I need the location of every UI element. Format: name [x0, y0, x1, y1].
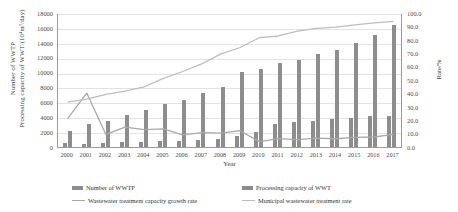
- legend-item[interactable]: Processing capacity of WWT: [242, 182, 402, 193]
- right-axis-tick-label: 90.0: [407, 24, 418, 30]
- right-axis-tick-label: 60.0: [407, 64, 418, 70]
- left-axis-title-line2: Processing capacity of WWT/(10⁴m³/day): [18, 0, 27, 139]
- left-axis-tick-label: 6000: [40, 100, 53, 106]
- left-axis-title-line1: Number of WWTP: [9, 0, 18, 139]
- left-axis-tick-label: 0: [50, 145, 53, 151]
- left-axis-tick-label: 18000: [37, 11, 53, 17]
- legend-item-label: Number of WWTP: [86, 184, 135, 191]
- left-axis-tick-label: 16000: [37, 26, 53, 32]
- left-axis-tick-label: 10000: [37, 70, 53, 76]
- chart-legend: Number of WWTPProcessing capacity of WWT…: [72, 182, 402, 206]
- right-axis-tick-label: 10.0: [407, 131, 418, 137]
- legend-item-label: Wastewater treatment capacity growth rat…: [88, 197, 197, 204]
- legend-line-swatch-light: [242, 200, 255, 201]
- left-axis-tick-label: 14000: [37, 41, 53, 47]
- right-axis-tick-label: 40.0: [407, 91, 418, 97]
- left-axis-tick-label: 4000: [40, 115, 53, 121]
- wwtp-chart: 0200040006000800010000120001400016000180…: [0, 0, 458, 212]
- right-axis-tick-label: 70.0: [407, 51, 418, 57]
- legend-item[interactable]: Wastewater treatment capacity growth rat…: [72, 195, 232, 206]
- line-municipal-treatment-rate: [68, 21, 394, 102]
- plot-area: [57, 14, 402, 148]
- right-axis-tick-label: 20.0: [407, 118, 418, 124]
- legend-item-label: Processing capacity of WWT: [256, 184, 331, 191]
- right-axis-tick-label: 100.0: [407, 11, 421, 17]
- x-axis-title: Year: [57, 160, 402, 167]
- left-axis-tick-label: 12000: [37, 55, 53, 61]
- right-axis-tick-label: 0.0: [407, 145, 415, 151]
- right-axis-tick-label: 50.0: [407, 78, 418, 84]
- left-axis-tick-label: 2000: [40, 130, 53, 136]
- legend-bar-swatch: [242, 186, 253, 190]
- legend-line-swatch: [72, 200, 85, 201]
- line-growth-rate: [68, 93, 394, 142]
- legend-item-label: Municipal wastewater treatment rate: [258, 197, 352, 204]
- legend-item[interactable]: Number of WWTP: [72, 182, 232, 193]
- right-axis-tick-label: 80.0: [407, 38, 418, 44]
- legend-item[interactable]: Municipal wastewater treatment rate: [242, 195, 402, 206]
- left-axis-title: Number of WWTP Processing capacity of WW…: [9, 0, 26, 139]
- legend-bar-swatch: [72, 186, 83, 190]
- right-axis-title: Rate/%: [435, 50, 442, 90]
- right-axis-tick-label: 30.0: [407, 105, 418, 111]
- left-axis-tick-label: 8000: [40, 85, 53, 91]
- line-series-container: [58, 14, 403, 148]
